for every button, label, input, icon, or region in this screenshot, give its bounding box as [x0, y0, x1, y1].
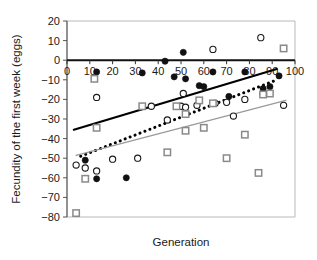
data-points [73, 35, 287, 217]
point-filled-circle [242, 69, 248, 75]
point-gray-square [173, 103, 179, 109]
point-filled-circle [267, 84, 273, 90]
point-filled-circle [210, 69, 216, 75]
point-filled-circle [82, 157, 88, 163]
point-filled-circle [201, 84, 207, 90]
point-filled-circle [94, 69, 100, 75]
x-tick-label-4: 40 [152, 65, 164, 77]
point-filled-circle [276, 73, 282, 79]
x-axis-ticks: 0102030405060708090100 [64, 60, 304, 77]
point-open-circle [258, 35, 264, 41]
point-open-circle [224, 99, 230, 105]
point-open-circle [182, 104, 188, 110]
y-tick-label-1: 10 [48, 35, 60, 47]
point-filled-circle [94, 176, 100, 182]
point-open-circle [135, 155, 141, 161]
y-axis-ticks: 20100−10−20−30−40−50−60−70−80 [41, 15, 67, 223]
point-filled-circle [171, 74, 177, 80]
point-gray-square [196, 97, 202, 103]
x-tick-label-10: 100 [286, 65, 304, 77]
point-open-circle [148, 103, 154, 109]
point-gray-square [91, 76, 97, 82]
y-tick-label-2: 0 [54, 54, 60, 66]
point-open-circle [242, 96, 248, 102]
x-tick-label-7: 70 [220, 65, 232, 77]
y-tick-label-0: 20 [48, 15, 60, 27]
y-tick-label-5: −30 [41, 113, 60, 125]
point-open-circle [82, 165, 88, 171]
y-tick-label-9: −70 [41, 191, 60, 203]
point-filled-circle [162, 58, 168, 64]
y-tick-label-6: −40 [41, 133, 60, 145]
point-filled-circle [226, 93, 232, 99]
point-gray-square [210, 100, 216, 106]
point-gray-square [242, 131, 248, 137]
point-gray-square [73, 210, 79, 216]
point-gray-square [182, 128, 188, 134]
y-tick-label-8: −60 [41, 172, 60, 184]
scatter-plot: 20100−10−20−30−40−50−60−70−8001020304050… [0, 0, 317, 260]
point-gray-square [93, 125, 99, 131]
point-open-circle [94, 94, 100, 100]
trendlines [74, 69, 286, 156]
x-tick-label-0: 0 [64, 65, 70, 77]
point-open-circle [110, 156, 116, 162]
y-tick-label-10: −80 [41, 211, 60, 223]
point-gray-square [267, 90, 273, 96]
point-filled-circle [180, 49, 186, 55]
point-gray-square [164, 149, 170, 155]
point-filled-circle [123, 175, 129, 181]
point-open-circle [281, 102, 287, 108]
point-gray-square [260, 91, 266, 97]
y-tick-label-4: −20 [41, 93, 60, 105]
point-open-circle [73, 162, 79, 168]
point-open-circle [210, 46, 216, 52]
point-gray-square [201, 125, 207, 131]
point-gray-square [223, 155, 229, 161]
point-gray-square [82, 176, 88, 182]
x-tick-label-2: 20 [106, 65, 118, 77]
point-gray-square [255, 170, 261, 176]
point-open-circle [94, 168, 100, 174]
y-tick-label-3: −10 [41, 74, 60, 86]
point-filled-circle [139, 70, 145, 76]
x-tick-label-6: 60 [198, 65, 210, 77]
chart-figure: 20100−10−20−30−40−50−60−70−8001020304050… [0, 0, 317, 260]
x-axis-title: Generation [153, 236, 210, 248]
point-gray-square [280, 45, 286, 51]
point-open-circle [164, 117, 170, 123]
point-open-circle [230, 113, 236, 119]
point-filled-circle [182, 76, 188, 82]
point-gray-square [182, 111, 188, 117]
y-tick-label-7: −50 [41, 152, 60, 164]
point-open-circle [180, 90, 186, 96]
point-gray-square [139, 103, 145, 109]
y-axis-title: Fecundity of the first week (eggs) [10, 34, 22, 204]
